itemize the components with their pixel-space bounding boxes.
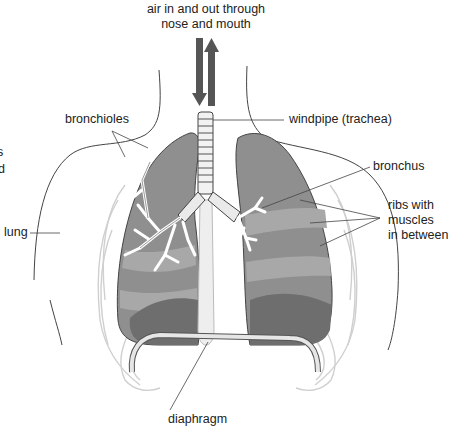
- ribs-label-line-2: muscles: [388, 213, 448, 228]
- bronchioles-label: bronchioles: [65, 112, 129, 127]
- lung-label: lung: [4, 225, 28, 240]
- windpipe-label: windpipe (trachea): [289, 112, 392, 127]
- airflow-label-line-2: nose and mouth: [146, 17, 266, 32]
- body-outline: [34, 66, 398, 350]
- diaphragm-label: diaphragm: [168, 412, 227, 427]
- edge-fragment-2: d: [0, 162, 5, 177]
- ribs-label-line-1: ribs with: [388, 198, 448, 213]
- airflow-arrows: [192, 38, 219, 106]
- ribs-label: ribs with muscles in between: [388, 198, 448, 243]
- bronchus-label: bronchus: [373, 159, 424, 174]
- anatomy-illustration: [0, 0, 453, 427]
- edge-fragment-1: s: [0, 145, 3, 160]
- ribs-label-line-3: in between: [388, 228, 448, 243]
- respiratory-diagram: air in and out through nose and mouth wi…: [0, 0, 453, 427]
- airflow-label: air in and out through nose and mouth: [146, 2, 266, 32]
- airflow-label-line-1: air in and out through: [146, 2, 266, 17]
